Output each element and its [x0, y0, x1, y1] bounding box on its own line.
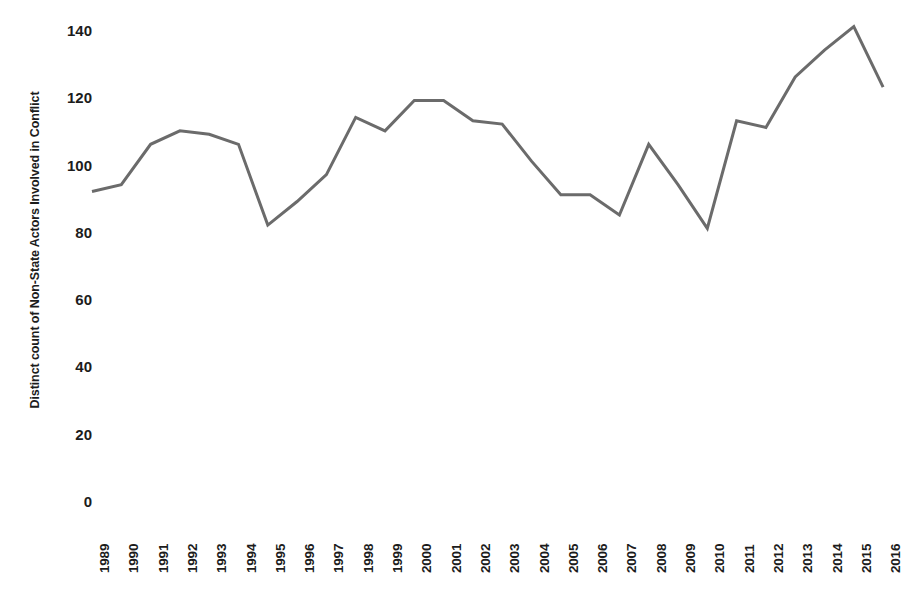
x-tick-label-2011: 2011 [742, 545, 757, 574]
x-tick-label-1990: 1990 [126, 544, 141, 573]
x-axis-tick-labels: 1989199019911992199319941995199619971998… [0, 0, 922, 590]
x-tick-label-1992: 1992 [185, 544, 200, 573]
x-tick-label-2004: 2004 [537, 544, 552, 573]
x-tick-label-1994: 1994 [244, 544, 259, 573]
x-tick-label-2012: 2012 [771, 544, 786, 573]
x-tick-label-2008: 2008 [654, 544, 669, 573]
x-tick-label-1993: 1993 [214, 544, 229, 573]
x-tick-label-2016: 2016 [888, 544, 903, 573]
x-tick-label-2010: 2010 [712, 544, 727, 573]
x-tick-label-1995: 1995 [273, 544, 288, 573]
x-tick-label-1989: 1989 [97, 544, 112, 573]
x-tick-label-2001: 2001 [449, 544, 464, 573]
x-tick-label-2009: 2009 [683, 544, 698, 573]
x-tick-label-2014: 2014 [830, 544, 845, 573]
x-tick-label-2003: 2003 [507, 544, 522, 573]
x-tick-label-2015: 2015 [859, 544, 874, 573]
x-tick-label-1996: 1996 [302, 544, 317, 573]
line-chart: Distinct count of Non-State Actors Invol… [0, 0, 922, 590]
x-tick-label-1997: 1997 [331, 544, 346, 573]
x-tick-label-2007: 2007 [624, 544, 639, 573]
x-tick-label-2000: 2000 [419, 544, 434, 573]
x-tick-label-2013: 2013 [800, 544, 815, 573]
x-tick-label-1999: 1999 [390, 544, 405, 573]
x-tick-label-2002: 2002 [478, 544, 493, 573]
x-tick-label-2006: 2006 [595, 544, 610, 573]
x-tick-label-1991: 1991 [156, 544, 171, 573]
x-tick-label-1998: 1998 [361, 544, 376, 573]
x-tick-label-2005: 2005 [566, 544, 581, 573]
